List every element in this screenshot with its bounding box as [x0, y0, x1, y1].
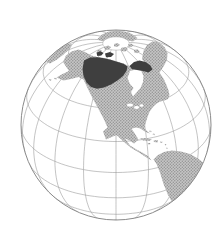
locator-map — [0, 0, 224, 234]
orthographic-globe — [0, 0, 224, 234]
